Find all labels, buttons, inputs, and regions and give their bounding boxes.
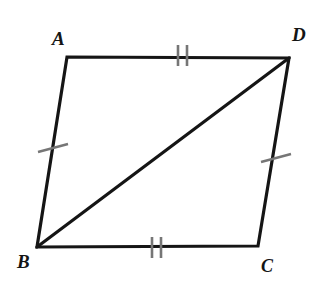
tick-DC-1-mark	[261, 154, 291, 162]
vertex-label-b: B	[17, 252, 30, 271]
geometry-figure: A D B C	[0, 0, 317, 289]
diagonal-bd	[37, 58, 289, 247]
vertex-label-d: D	[292, 25, 306, 44]
vertex-label-c: C	[261, 257, 273, 275]
vertex-label-a: A	[52, 29, 65, 48]
quadrilateral-diagram	[0, 0, 317, 289]
